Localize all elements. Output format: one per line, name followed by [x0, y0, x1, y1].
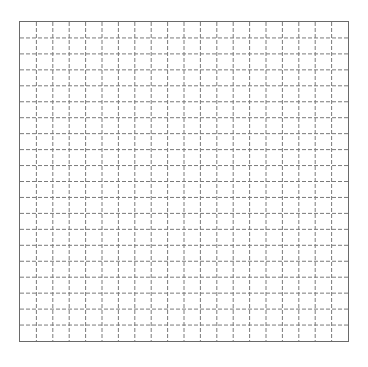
dashed-grid — [20, 22, 348, 341]
grid-frame — [19, 21, 349, 342]
